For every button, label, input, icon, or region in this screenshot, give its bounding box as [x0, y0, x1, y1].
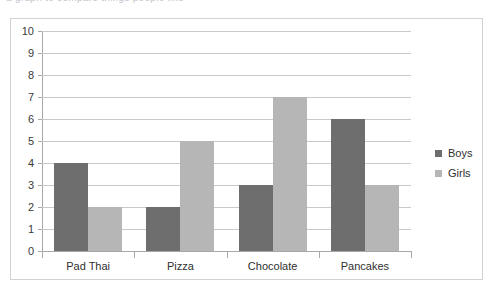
y-axis-label: 7 — [28, 91, 34, 103]
gridline — [42, 97, 411, 98]
y-axis-tick — [38, 163, 42, 164]
bar-boys-pancakes — [331, 119, 365, 251]
y-axis-tick — [38, 53, 42, 54]
y-axis-label: 0 — [28, 245, 34, 257]
y-axis-label: 5 — [28, 135, 34, 147]
gridline — [42, 31, 411, 32]
y-axis-tick — [38, 207, 42, 208]
x-axis-label: Pizza — [167, 260, 194, 272]
x-axis-start-tick — [42, 251, 43, 258]
gridline — [42, 53, 411, 54]
y-axis-label: 4 — [28, 157, 34, 169]
y-axis-tick — [38, 185, 42, 186]
legend-swatch-girls-icon — [435, 170, 442, 177]
bar-girls-pizza — [180, 141, 214, 251]
y-axis-tick — [38, 97, 42, 98]
y-axis-label: 8 — [28, 69, 34, 81]
y-axis-label: 6 — [28, 113, 34, 125]
y-axis-label: 2 — [28, 201, 34, 213]
legend-item-girls: Girls — [435, 163, 472, 183]
legend-label-girls: Girls — [448, 167, 471, 179]
y-axis-tick — [38, 119, 42, 120]
category-separator — [319, 251, 320, 258]
bar-boys-pad-thai — [54, 163, 88, 251]
chart-legend: Boys Girls — [435, 143, 472, 183]
bar-girls-pancakes — [365, 185, 399, 251]
x-axis-end-tick — [411, 251, 412, 258]
chart-frame: 012345678910Pad ThaiPizzaChocolatePancak… — [10, 18, 483, 280]
y-axis-tick — [38, 141, 42, 142]
legend-swatch-boys-icon — [435, 150, 442, 157]
legend-item-boys: Boys — [435, 143, 472, 163]
y-axis-label: 9 — [28, 47, 34, 59]
y-axis-tick — [38, 75, 42, 76]
x-axis-label: Chocolate — [248, 260, 298, 272]
y-axis-tick — [38, 31, 42, 32]
y-axis-label: 10 — [22, 25, 34, 37]
category-separator — [227, 251, 228, 258]
bar-girls-chocolate — [273, 97, 307, 251]
y-axis-tick — [38, 229, 42, 230]
legend-label-boys: Boys — [448, 147, 472, 159]
clipped-caption-text: a graph to compare things people like — [6, 0, 306, 4]
x-axis-label: Pancakes — [341, 260, 389, 272]
gridline — [42, 75, 411, 76]
category-separator — [134, 251, 135, 258]
bar-boys-pizza — [146, 207, 180, 251]
bar-boys-chocolate — [239, 185, 273, 251]
x-axis-label: Pad Thai — [66, 260, 110, 272]
bar-girls-pad-thai — [88, 207, 122, 251]
y-axis-label: 3 — [28, 179, 34, 191]
y-axis-label: 1 — [28, 223, 34, 235]
plot-area: 012345678910Pad ThaiPizzaChocolatePancak… — [42, 31, 411, 251]
